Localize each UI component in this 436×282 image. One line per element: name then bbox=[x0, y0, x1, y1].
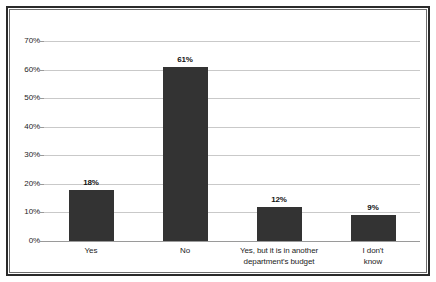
plot-area: 18%61%12%9% bbox=[44, 41, 420, 241]
y-tick-50: 50% bbox=[4, 94, 40, 103]
x-axis-label-line: department's budget bbox=[232, 256, 326, 267]
chart-figure: 70%60%50%40%30%20%10%0% 18%61%12%9% YesN… bbox=[0, 0, 436, 282]
x-axis-label-line: know bbox=[326, 256, 420, 267]
bar-value-label: 18% bbox=[66, 178, 116, 187]
bar-value-label: 9% bbox=[348, 203, 398, 212]
gridline-40 bbox=[44, 127, 420, 128]
y-tick-label: 40% bbox=[6, 123, 40, 131]
bar bbox=[351, 215, 396, 241]
y-tick-30: 30% bbox=[4, 151, 40, 160]
bar-value-label: 61% bbox=[160, 55, 210, 64]
y-axis: 70%60%50%40%30%20%10%0% bbox=[4, 41, 40, 241]
gridline-60 bbox=[44, 70, 420, 71]
x-axis-label-line: Yes, but it is in another bbox=[232, 245, 326, 256]
gridline-30 bbox=[44, 155, 420, 156]
y-tick-label: 10% bbox=[6, 208, 40, 216]
axis-baseline bbox=[44, 241, 420, 242]
y-tick-20: 20% bbox=[4, 180, 40, 189]
x-axis-label: Yes bbox=[44, 245, 138, 256]
gridline-70 bbox=[44, 41, 420, 42]
x-axis-label-line: I don't bbox=[326, 245, 420, 256]
y-tick-label: 60% bbox=[6, 66, 40, 74]
y-tick-60: 60% bbox=[4, 66, 40, 75]
y-tick-10: 10% bbox=[4, 208, 40, 217]
bar bbox=[163, 67, 208, 241]
bar bbox=[257, 207, 302, 241]
y-tick-label: 0% bbox=[6, 237, 40, 245]
y-tick-40: 40% bbox=[4, 123, 40, 132]
x-axis-label: Yes, but it is in anotherdepartment's bu… bbox=[232, 245, 326, 267]
x-axis-label-line: No bbox=[138, 245, 232, 256]
x-axis-label-line: Yes bbox=[44, 245, 138, 256]
x-axis-label: I don'tknow bbox=[326, 245, 420, 267]
bar-value-label: 12% bbox=[254, 195, 304, 204]
y-tick-label: 30% bbox=[6, 151, 40, 159]
x-axis-labels: YesNoYes, but it is in anotherdepartment… bbox=[44, 245, 420, 275]
y-tick-0: 0% bbox=[4, 237, 40, 246]
bar bbox=[69, 190, 114, 241]
x-axis-label: No bbox=[138, 245, 232, 256]
y-tick-label: 20% bbox=[6, 180, 40, 188]
y-tick-70: 70% bbox=[4, 37, 40, 46]
y-tick-label: 50% bbox=[6, 94, 40, 102]
gridline-50 bbox=[44, 98, 420, 99]
y-tick-label: 70% bbox=[6, 37, 40, 45]
